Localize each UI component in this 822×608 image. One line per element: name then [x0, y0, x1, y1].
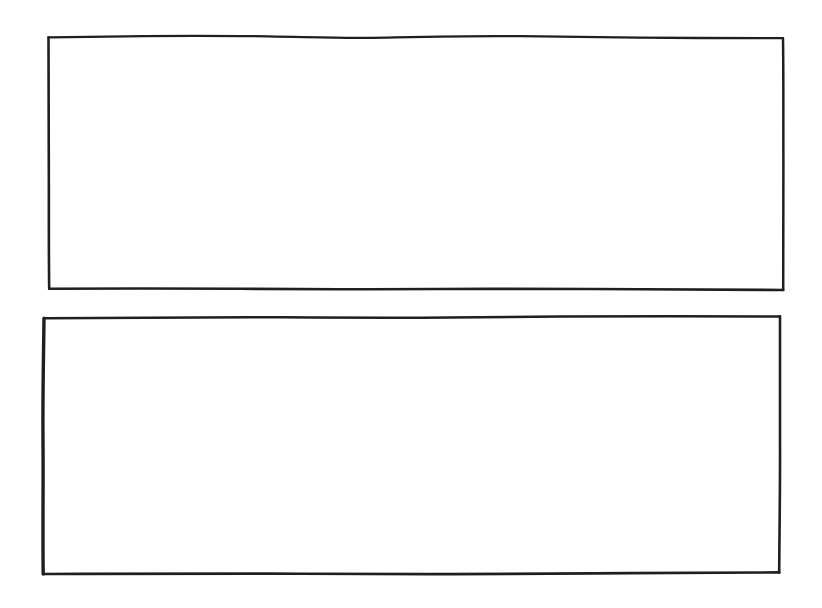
panel-2[interactable] [43, 316, 780, 573]
panel-1[interactable] [48, 36, 783, 290]
sketch-canvas [0, 0, 822, 608]
